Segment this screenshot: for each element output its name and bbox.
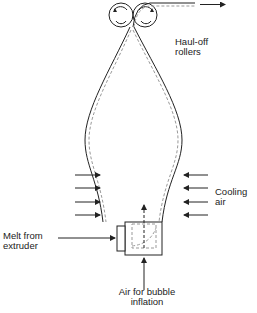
cooling-label-line2: air [215,197,247,207]
haul-off-label: Haul-off rollers [175,37,208,57]
haul-off-label-line2: rollers [175,47,208,57]
diagram-graphic [0,0,257,313]
cooling-air-arrows [75,175,208,215]
film-bubble [85,27,182,222]
air-label-line2: inflation [112,297,182,307]
cooling-air-label: Cooling air [215,187,247,207]
blown-film-diagram: Haul-off rollers Cooling air Melt from e… [0,0,257,313]
melt-label-line2: extruder [3,241,43,251]
melt-label: Melt from extruder [3,231,43,251]
air-inflation-label: Air for bubble inflation [112,287,182,307]
extruder-die [117,205,162,255]
